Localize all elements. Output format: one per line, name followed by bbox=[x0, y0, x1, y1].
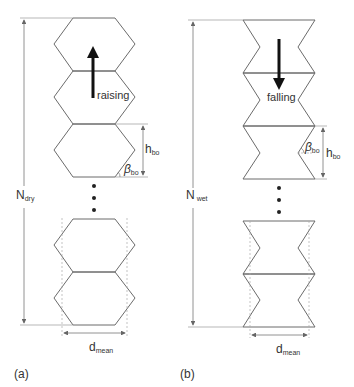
element-height-label: hbo bbox=[326, 146, 341, 160]
height-label: Nwet bbox=[186, 188, 208, 202]
width-label: dmean bbox=[89, 340, 113, 354]
panel-tag: (b) bbox=[180, 367, 195, 381]
motion-label: falling bbox=[267, 91, 296, 103]
bowtie-stack-bottom bbox=[243, 221, 315, 327]
hexagon-stack-bottom bbox=[54, 219, 135, 325]
ellipsis-dots bbox=[277, 186, 281, 214]
motion-label: raising bbox=[97, 89, 129, 101]
panel-tag: (a) bbox=[14, 367, 29, 381]
height-label: Ndry bbox=[16, 188, 35, 203]
falling-arrow-icon bbox=[273, 39, 285, 90]
element-height-label: hbo bbox=[145, 142, 160, 156]
panel-a: raising Ndry hbo βbo dmean (a) bbox=[14, 18, 160, 381]
angle-label: βbo bbox=[123, 162, 139, 176]
panel-b: falling Nwet hbo βbo dmean (b) bbox=[180, 20, 341, 381]
width-label: dmean bbox=[276, 342, 300, 356]
diagram-canvas: raising Ndry hbo βbo dmean (a) bbox=[0, 0, 354, 387]
angle-label: βbo bbox=[304, 140, 320, 154]
ellipsis-dots bbox=[92, 184, 96, 212]
